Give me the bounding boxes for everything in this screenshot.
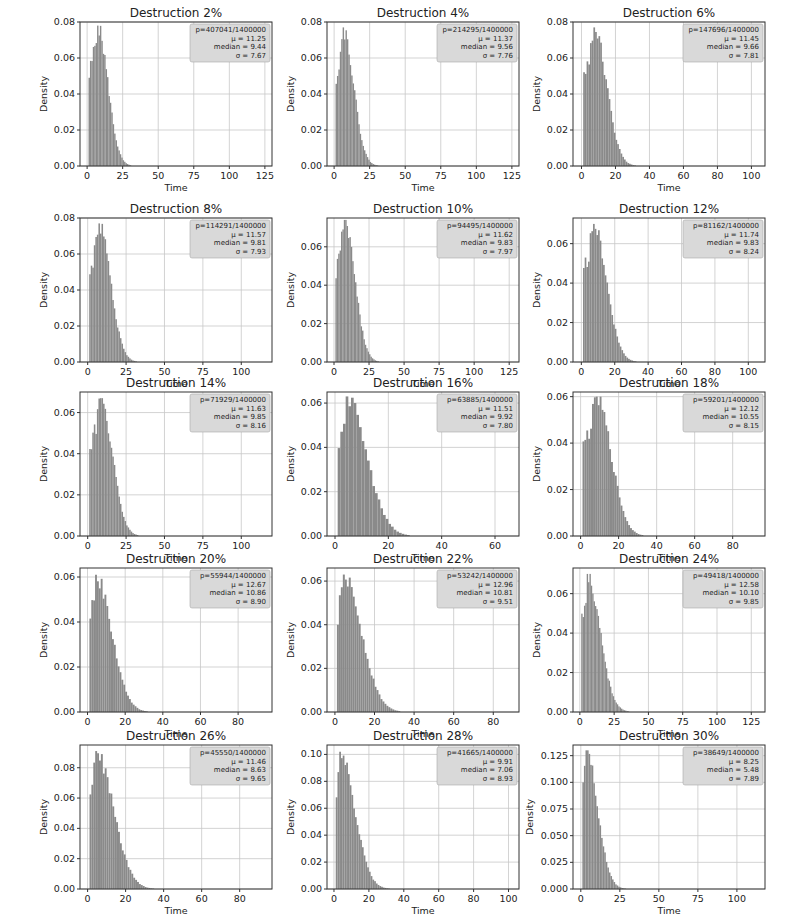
y-axis-label: Density [531, 622, 542, 658]
x-axis-label: Time [410, 905, 434, 915]
svg-text:0.00: 0.00 [547, 530, 568, 541]
svg-text:p=147696/1400000: p=147696/1400000 [688, 26, 759, 34]
y-axis-ticks: 0.000.020.040.06 [301, 575, 327, 717]
svg-text:σ = 7.89: σ = 7.89 [729, 775, 759, 783]
svg-text:20: 20 [120, 893, 132, 904]
svg-text:0.04: 0.04 [301, 441, 322, 452]
svg-text:μ = 11.45: μ = 11.45 [724, 35, 759, 43]
svg-text:0.00: 0.00 [54, 530, 75, 541]
svg-text:0.08: 0.08 [547, 16, 568, 27]
svg-text:40: 40 [158, 893, 170, 904]
svg-text:0.08: 0.08 [54, 762, 75, 773]
y-axis-label: Density [524, 799, 535, 835]
x-axis-ticks: 020406080100 [578, 166, 760, 181]
svg-text:p=81162/1400000: p=81162/1400000 [693, 222, 759, 230]
svg-text:σ = 8.24: σ = 8.24 [729, 248, 760, 256]
svg-text:p=49418/1400000: p=49418/1400000 [693, 572, 759, 580]
svg-text:75: 75 [188, 170, 200, 181]
y-axis-label: Density [285, 272, 296, 308]
svg-text:0.04: 0.04 [547, 277, 568, 288]
svg-text:0.02: 0.02 [54, 320, 75, 331]
svg-text:60: 60 [677, 170, 689, 181]
svg-text:0.000: 0.000 [541, 883, 568, 894]
y-axis-label: Density [38, 446, 49, 482]
stats-legend: p=49418/1400000μ = 12.58median = 10.10σ … [683, 570, 763, 608]
svg-text:0.10: 0.10 [301, 748, 322, 759]
subplot-title: Destruction 4% [377, 6, 470, 20]
svg-text:0.04: 0.04 [54, 822, 75, 833]
svg-text:25: 25 [614, 893, 626, 904]
svg-text:0.06: 0.06 [547, 238, 568, 249]
svg-text:100: 100 [467, 170, 485, 181]
subplot-destruction-4: Destruction 4%02550751001250.000.020.040… [247, 0, 529, 204]
y-axis-ticks: 0.0000.0250.0500.0750.1000.125 [541, 750, 573, 894]
svg-text:σ = 8.15: σ = 8.15 [729, 422, 759, 430]
svg-text:100: 100 [220, 170, 238, 181]
subplot-destruction-24: Destruction 24%02550751001250.000.020.04… [493, 546, 775, 750]
subplot-destruction-16: Destruction 16%02040600.000.020.040.06Ti… [247, 370, 529, 574]
svg-text:median = 10.10: median = 10.10 [702, 589, 759, 597]
y-axis-ticks: 0.000.020.040.06 [301, 397, 327, 541]
stats-legend: p=147696/1400000μ = 11.45median = 9.66σ … [683, 24, 763, 62]
svg-text:0.04: 0.04 [301, 619, 322, 630]
subplot-title: Destruction 26% [126, 729, 226, 743]
svg-text:0.02: 0.02 [54, 489, 75, 500]
svg-text:0.02: 0.02 [301, 124, 322, 135]
y-axis-ticks: 0.000.020.040.060.08 [547, 16, 573, 171]
y-axis-label: Density [531, 272, 542, 308]
y-axis-ticks: 0.000.020.040.060.08 [54, 762, 80, 894]
svg-text:0.04: 0.04 [547, 627, 568, 638]
subplot-title: Destruction 20% [126, 552, 226, 566]
svg-text:median = 10.55: median = 10.55 [702, 413, 759, 421]
svg-text:μ = 11.74: μ = 11.74 [724, 231, 759, 239]
svg-text:0.02: 0.02 [54, 661, 75, 672]
svg-text:0.04: 0.04 [301, 829, 322, 840]
svg-text:0.00: 0.00 [301, 160, 322, 171]
svg-text:0.025: 0.025 [541, 856, 568, 867]
svg-text:0.06: 0.06 [547, 391, 568, 402]
svg-text:50: 50 [152, 170, 164, 181]
y-axis-label: Density [38, 76, 49, 112]
svg-text:60: 60 [433, 893, 445, 904]
svg-text:0.04: 0.04 [547, 88, 568, 99]
svg-text:0.06: 0.06 [547, 588, 568, 599]
x-axis-label: Time [163, 905, 187, 915]
svg-text:0: 0 [331, 893, 337, 904]
svg-text:μ = 12.12: μ = 12.12 [724, 405, 759, 413]
y-axis-ticks: 0.000.020.040.060.08 [54, 212, 80, 367]
svg-text:p=38649/1400000: p=38649/1400000 [693, 749, 759, 757]
y-axis-label: Density [285, 76, 296, 112]
svg-text:0: 0 [578, 893, 584, 904]
y-axis-ticks: 0.000.020.040.06 [547, 391, 573, 541]
stats-legend: p=59201/1400000μ = 12.12median = 10.55σ … [683, 394, 763, 432]
y-axis-ticks: 0.000.020.040.06 [54, 571, 80, 717]
y-axis-ticks: 0.000.020.040.060.080.10 [301, 748, 327, 894]
svg-text:100: 100 [728, 893, 746, 904]
svg-text:p=59201/1400000: p=59201/1400000 [693, 396, 759, 404]
subplot-title: Destruction 10% [373, 202, 473, 216]
y-axis-ticks: 0.000.020.040.06 [547, 238, 573, 367]
subplot-destruction-6: Destruction 6%0204060801000.000.020.040.… [493, 0, 775, 204]
x-axis-label: Time [163, 182, 187, 193]
svg-text:0.00: 0.00 [547, 356, 568, 367]
y-axis-label: Density [38, 799, 49, 835]
subplot-title: Destruction 16% [373, 376, 473, 390]
svg-text:0: 0 [84, 170, 90, 181]
x-axis-ticks: 0255075100 [578, 889, 746, 904]
svg-text:median = 9.83: median = 9.83 [707, 239, 759, 247]
svg-text:0.02: 0.02 [547, 124, 568, 135]
y-axis-ticks: 0.000.020.040.06 [54, 407, 80, 541]
y-axis-ticks: 0.000.020.040.060.08 [54, 16, 80, 171]
svg-text:0.08: 0.08 [301, 16, 322, 27]
svg-text:75: 75 [692, 893, 704, 904]
y-axis-ticks: 0.000.020.040.06 [547, 588, 573, 717]
svg-text:0.00: 0.00 [301, 530, 322, 541]
svg-text:0.04: 0.04 [301, 279, 322, 290]
y-axis-label: Density [38, 622, 49, 658]
svg-text:0.02: 0.02 [301, 856, 322, 867]
svg-text:0.050: 0.050 [541, 830, 568, 841]
y-axis-label: Density [38, 272, 49, 308]
svg-text:μ = 8.25: μ = 8.25 [729, 758, 759, 766]
svg-text:0.06: 0.06 [301, 802, 322, 813]
svg-text:0.02: 0.02 [54, 853, 75, 864]
